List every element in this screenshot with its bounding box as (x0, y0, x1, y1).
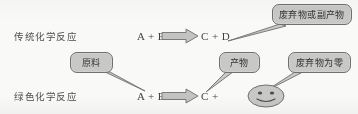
chemistry-comparison-figure: 传统化学反应 绿色化学反应 A + B C + D A + B C + 废弃物或… (0, 0, 358, 114)
callout-tail-raw-material (103, 71, 145, 91)
callout-raw-material: 原料 (70, 52, 113, 73)
callout-tail-waste-byproduct (228, 24, 286, 41)
callout-zero-waste: 废弃物为零 (288, 52, 351, 73)
callout-waste-byproduct: 废弃物或副产物 (272, 4, 352, 25)
callout-tail-product (206, 72, 233, 92)
callout-product: 产物 (219, 52, 260, 73)
smiley-face-icon (248, 85, 284, 107)
reaction-arrow-traditional (162, 29, 198, 43)
reaction-arrow-green (162, 89, 198, 103)
